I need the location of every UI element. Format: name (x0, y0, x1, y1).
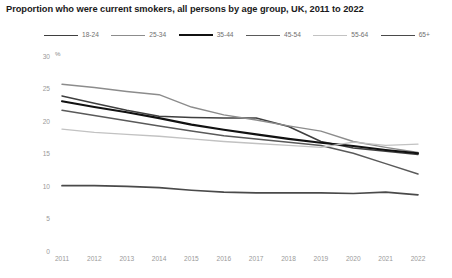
plot-area (0, 0, 452, 278)
series-line-35-44 (62, 101, 418, 153)
chart-container: Proportion who were current smokers, all… (0, 0, 452, 278)
series-line-65plus (62, 186, 418, 195)
series-line-18-24 (62, 96, 418, 155)
